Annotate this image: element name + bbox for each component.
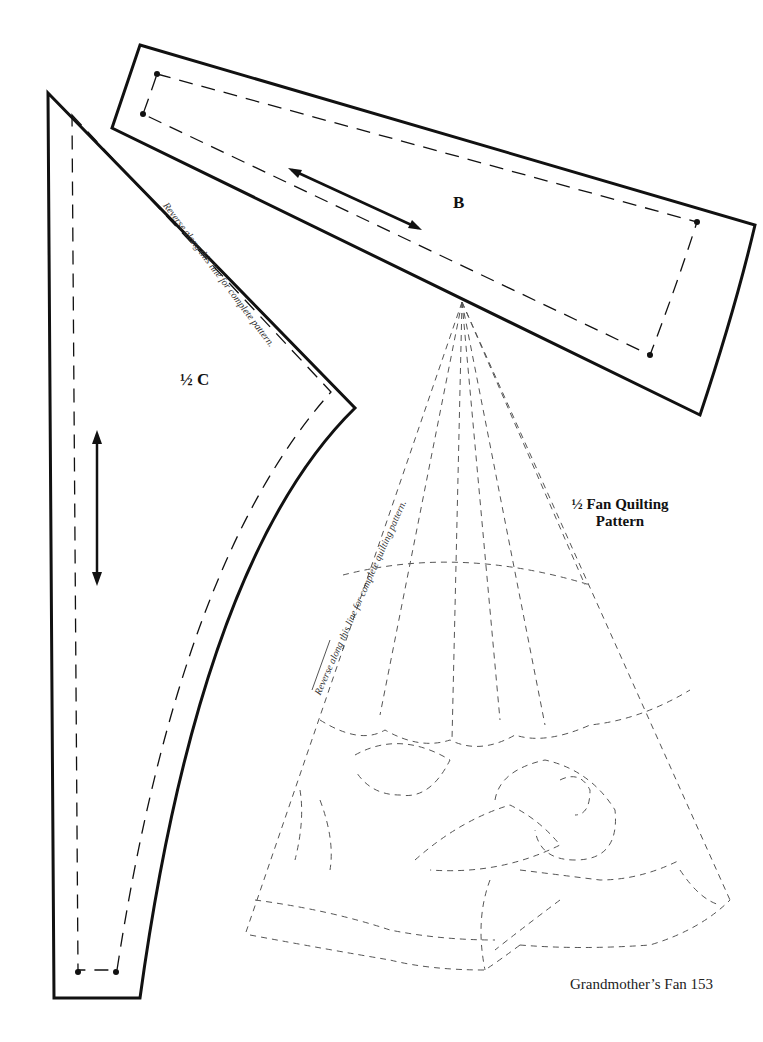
fan-title-line1: ½ Fan Quilting: [560, 496, 680, 513]
fan-title: ½ Fan Quilting Pattern: [560, 496, 680, 530]
fan-title-line2: Pattern: [560, 513, 680, 530]
page-footer: Grandmother’s Fan 153: [570, 976, 713, 993]
piece-half-c: [48, 93, 355, 998]
piece-c-label: ½ C: [180, 370, 209, 390]
piece-b: [112, 45, 755, 415]
fan-quilting-pattern: [245, 302, 730, 970]
grain-arrow-icon: [288, 168, 422, 230]
piece-b-label: B: [453, 193, 464, 213]
grain-arrow-icon: [92, 430, 102, 586]
